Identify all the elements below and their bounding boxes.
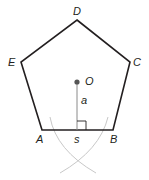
vertex-label-a: A (35, 133, 43, 145)
vertex-label-c: C (133, 56, 141, 68)
vertex-label-e: E (8, 56, 16, 68)
vertex-label-b: B (110, 133, 117, 145)
construction-arc-right (60, 117, 108, 173)
vertex-label-d: D (73, 5, 81, 17)
center-label-o: O (85, 75, 94, 87)
right-angle-mark (77, 121, 86, 130)
pentagon-diagram: D E C A B O a s (0, 0, 149, 180)
center-point (74, 79, 79, 84)
side-label: s (74, 133, 80, 145)
apothem-label: a (81, 94, 87, 106)
pentagon-outline (21, 20, 130, 130)
